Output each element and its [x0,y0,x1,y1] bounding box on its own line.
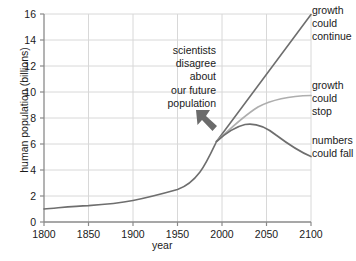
y-axis-title: human population (billions) [18,30,30,190]
y-tick-label: 2 [30,190,36,202]
x-tick-label: 1900 [121,228,145,240]
series-line-historical [44,142,217,210]
x-tick-label: 1800 [32,228,56,240]
population-projection-chart: 16 14 12 10 8 6 4 2 0 1800 1850 1900 195… [0,0,356,261]
x-axis-title: year [152,239,172,251]
annotation-arrow-icon [196,110,217,131]
annotation-scientists-disagree: scientists disagree about our future pop… [108,44,216,110]
y-tick-label: 0 [30,216,36,228]
y-tick-label: 16 [24,8,36,20]
chart-plot-area: 16 14 12 10 8 6 4 2 0 1800 1850 1900 195… [0,0,356,261]
annotation-growth-could-continue: growth could continue [312,4,352,44]
y-tick-label: 8 [30,112,36,124]
annotation-numbers-could-fall: numbers could fall [312,134,353,160]
x-tick-label: 2000 [210,228,234,240]
y-tick-label: 6 [30,138,36,150]
y-tick-label: 4 [30,164,36,176]
x-tick-label: 2100 [299,228,323,240]
x-tick-label: 1850 [77,228,101,240]
x-tick-label: 2050 [255,228,279,240]
series-line-growth-could-continue [217,15,312,142]
annotation-growth-could-stop: growth could stop [312,79,344,119]
x-axis-tick-labels: 1800 1850 1900 1950 2000 2050 2100 [32,228,323,240]
